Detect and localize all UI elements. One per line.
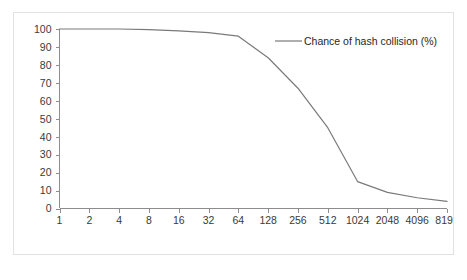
y-tick-label: 50 <box>40 113 52 125</box>
x-axis-ticks <box>61 209 448 213</box>
y-tick-label: 10 <box>40 184 52 196</box>
y-tick-label: 70 <box>40 77 52 89</box>
x-tick-label: 128 <box>259 214 277 226</box>
x-tick-label: 8 <box>146 214 152 226</box>
data-series-group <box>60 29 448 201</box>
x-tick-label: 4096 <box>406 214 430 226</box>
x-tick-label: 32 <box>203 214 215 226</box>
x-tick-label: 1 <box>57 214 63 226</box>
y-tick-label: 30 <box>40 148 52 160</box>
x-tick-label: 2 <box>86 214 92 226</box>
series-line-chance-of-hash-collision <box>60 29 448 201</box>
x-axis: 12481632641282565121024204840968192 <box>57 209 453 226</box>
y-tick-label: 40 <box>40 131 52 143</box>
x-tick-label: 256 <box>289 214 307 226</box>
y-axis-tick-labels: 0102030405060708090100 <box>34 23 52 215</box>
y-tick-label: 20 <box>40 166 52 178</box>
y-tick-label: 90 <box>40 41 52 53</box>
x-tick-label: 512 <box>319 214 337 226</box>
x-tick-label: 64 <box>233 214 245 226</box>
chart-frame: 0102030405060708090100 12481632641282565… <box>13 12 454 255</box>
x-tick-label: 2048 <box>376 214 400 226</box>
y-tick-label: 0 <box>46 202 52 214</box>
y-tick-label: 80 <box>40 59 52 71</box>
y-tick-label: 60 <box>40 95 52 107</box>
y-axis-ticks <box>56 30 60 210</box>
x-tick-label: 16 <box>173 214 185 226</box>
x-tick-label: 1024 <box>346 214 370 226</box>
legend-label: Chance of hash collision (%) <box>304 35 437 47</box>
line-chart: 0102030405060708090100 12481632641282565… <box>14 13 453 254</box>
x-tick-label: 4 <box>116 214 122 226</box>
y-axis: 0102030405060708090100 <box>34 23 60 215</box>
chart-legend: Chance of hash collision (%) <box>275 35 437 47</box>
x-axis-tick-labels: 12481632641282565121024204840968192 <box>57 214 453 226</box>
y-tick-label: 100 <box>34 23 52 35</box>
x-tick-label: 8192 <box>435 214 453 226</box>
